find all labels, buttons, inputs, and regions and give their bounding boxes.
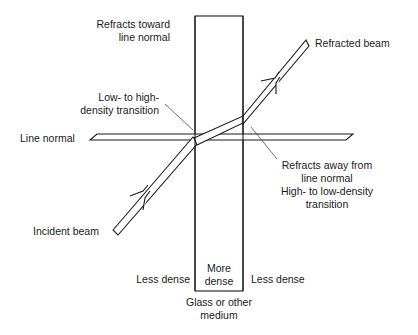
- label-less-dense-left: Less dense: [120, 273, 190, 286]
- label-refracted-beam: Refracted beam: [315, 37, 390, 50]
- label-more-dense: More dense: [195, 262, 243, 288]
- line-normal: [90, 134, 353, 140]
- label-low-to-high: Low- to high- density transition: [60, 91, 159, 117]
- incident-beam: [113, 137, 198, 235]
- label-less-dense-right: Less dense: [251, 273, 305, 286]
- leader-refracts-away: [251, 127, 277, 159]
- label-refracts-toward: Refracts toward line normal: [80, 18, 170, 44]
- label-line-normal: Line normal: [20, 132, 75, 145]
- label-medium: Glass or other medium: [164, 296, 274, 322]
- leader-low-to-high: [165, 104, 193, 130]
- medium-block: [195, 16, 243, 291]
- refracted-beam: [243, 40, 309, 124]
- label-refracts-away: Refracts away from line normal High- to …: [272, 159, 382, 211]
- internal-beam: [194, 116, 243, 145]
- label-incident-beam: Incident beam: [33, 225, 99, 238]
